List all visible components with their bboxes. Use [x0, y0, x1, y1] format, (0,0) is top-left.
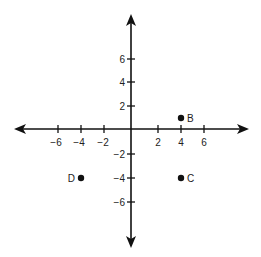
coordinate-plane: −6 −4 −2 2 4 6 6 4 2 −2 −4 −6 B C D [0, 0, 261, 257]
x-tick-labels: −6 −4 −2 2 4 6 [50, 137, 207, 148]
y-tick-label: 4 [119, 77, 125, 88]
y-tick-label: 6 [119, 54, 125, 65]
x-tick-label: 2 [155, 137, 161, 148]
y-tick-label: −2 [114, 149, 126, 160]
point-marker [78, 175, 84, 181]
y-tick-label: 2 [119, 101, 125, 112]
y-tick-labels: 6 4 2 −2 −4 −6 [114, 54, 126, 208]
x-tick-label: −4 [73, 137, 85, 148]
point-label: D [68, 173, 75, 184]
point-label: C [187, 173, 194, 184]
x-tick-label: −2 [97, 137, 109, 148]
x-tick-label: 6 [201, 137, 207, 148]
y-tick-label: −4 [114, 173, 126, 184]
point-c: C [178, 173, 194, 184]
y-tick-label: −6 [114, 197, 126, 208]
x-tick-label: 4 [178, 137, 184, 148]
y-axis [126, 14, 136, 248]
point-b: B [178, 113, 194, 124]
point-marker [178, 115, 184, 121]
point-marker [178, 175, 184, 181]
point-d: D [68, 173, 84, 184]
x-tick-label: −6 [50, 137, 62, 148]
point-label: B [187, 113, 194, 124]
